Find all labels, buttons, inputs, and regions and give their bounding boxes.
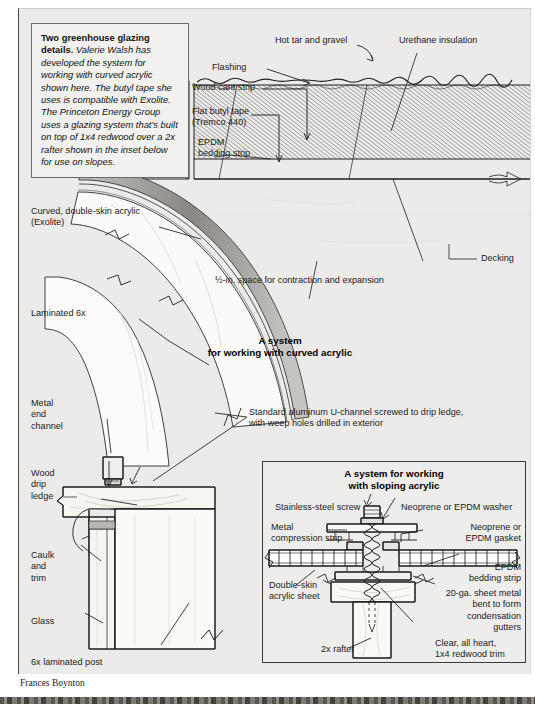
label-2x-rafter: 2x rafter — [321, 644, 354, 655]
label-wood-cant-strip: Wood cant strip — [192, 82, 255, 93]
label-expansion-space: ½-in. space for contraction and expansio… — [215, 275, 384, 286]
inset-title: A system for working with sloping acryli… — [263, 468, 525, 492]
label-flashing: Flashing — [212, 62, 246, 73]
label-caulk-and-trim: Caulk and trim — [31, 550, 54, 584]
label-metal-end-channel: Metal end channel — [31, 398, 63, 432]
label-double-skin-acrylic-sheet: Double-skin acrylic sheet — [269, 580, 320, 603]
main-detail-title: A system for working with curved acrylic — [165, 335, 395, 359]
label-aluminum-u-channel: Standard aluminum U-channel screwed to d… — [249, 407, 463, 430]
label-stainless-steel-screw: Stainless-steel screw — [275, 502, 360, 513]
label-neoprene-epdm-washer: Neoprene or EPDM washer — [401, 502, 512, 513]
scan-edge-artifact — [0, 697, 535, 704]
label-laminated-6x: Laminated 6x — [31, 308, 86, 319]
inset-sloping-acrylic: A system for working with sloping acryli… — [262, 461, 526, 663]
label-neoprene-epdm-gasket: Neoprene or EPDM gasket — [429, 522, 521, 545]
illustrator-credit: Frances Boynton — [20, 678, 85, 688]
caption-box: Two greenhouse glazing details. Valerie … — [31, 23, 189, 178]
label-urethane-insulation: Urethane insulation — [399, 35, 477, 46]
label-glass: Glass — [31, 616, 54, 627]
label-inset-epdm-bedding-strip: EPDM bedding strip — [443, 562, 521, 585]
label-decking: Decking — [481, 253, 514, 264]
label-wood-drip-ledge: Wood drip ledge — [31, 468, 55, 502]
figure-page: Two greenhouse glazing details. Valerie … — [0, 0, 535, 704]
label-hot-tar-and-gravel: Hot tar and gravel — [275, 35, 347, 46]
caption-body: Valerie Walsh has developed the system f… — [41, 44, 178, 167]
label-flat-butyl-tape: Flat butyl tape (Tremco 440) — [192, 106, 249, 129]
label-20ga-sheet-metal: 20-ga. sheet metal bent to form condensa… — [423, 588, 521, 633]
caption-text: Two greenhouse glazing details. Valerie … — [41, 32, 179, 168]
label-curved-double-skin-acrylic: Curved, double-skin acrylic (Exolite) — [31, 206, 140, 229]
illustration-panel: Two greenhouse glazing details. Valerie … — [18, 8, 531, 674]
label-6x-laminated-post: 6x laminated post — [31, 657, 102, 668]
label-redwood-trim: Clear, all heart, 1x4 redwood trim — [435, 638, 505, 661]
label-epdm-bedding-strip: EPDM bedding strip — [198, 137, 250, 160]
label-metal-compression-strip: Metal compression strip — [271, 522, 342, 545]
